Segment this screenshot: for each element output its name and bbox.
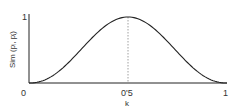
y-tick-1: 1 — [22, 12, 27, 22]
y-axis-label: Sim (pᵢ, pⱼ) — [8, 31, 17, 68]
x-tick-1: 1 — [223, 88, 228, 98]
chart: 1 0 0'5 1 k Sim (pᵢ, pⱼ) — [0, 0, 239, 111]
x-tick-0: 0 — [21, 88, 26, 98]
x-axis-label: k — [125, 99, 130, 108]
x-tick-mid: 0'5 — [121, 88, 133, 98]
